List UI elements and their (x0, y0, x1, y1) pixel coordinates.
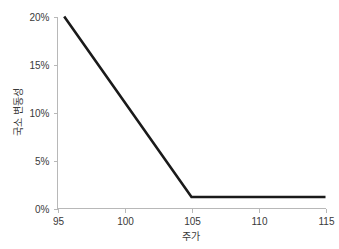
y-tick-label: 10% (29, 108, 49, 119)
y-tick-label: 5% (35, 156, 50, 167)
x-tick-label: 115 (319, 216, 335, 227)
x-tick-label: 100 (117, 216, 134, 227)
y-tick-label: 20% (29, 12, 49, 23)
x-tick-label: 105 (184, 216, 201, 227)
y-tick-label: 15% (29, 60, 49, 71)
chart-container: 0%5%10%15%20% 95100105110115 주가 국소 변동성 (0, 0, 339, 249)
y-axis-title: 국소 변동성 (13, 88, 24, 136)
chart-background (0, 0, 339, 249)
x-tick-label: 95 (53, 216, 65, 227)
y-tick-label: 0% (35, 204, 50, 215)
x-axis-title: 주가 (182, 231, 200, 242)
x-tick-label: 110 (252, 216, 268, 227)
local-volatility-line-chart: 0%5%10%15%20% 95100105110115 주가 국소 변동성 (0, 0, 339, 249)
